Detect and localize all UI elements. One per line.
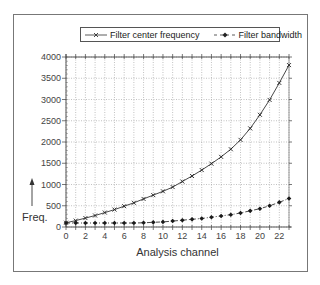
- series-center-frequency-line: [66, 65, 289, 223]
- x-tick-label: 18: [236, 231, 246, 241]
- series-bandwidth-line: [66, 199, 289, 224]
- diamond-marker: [122, 221, 127, 226]
- x-axis-title: Analysis channel: [136, 246, 219, 258]
- legend-item-bandwidth: Filter bandwidth: [210, 30, 303, 40]
- x-tick-label: 12: [177, 231, 187, 241]
- y-tick-label: 2500: [41, 116, 61, 126]
- diamond-marker: [229, 212, 234, 217]
- y-tick-label: 1000: [41, 180, 61, 190]
- legend-label-bandwidth: Filter bandwidth: [239, 30, 303, 40]
- x-tick-label: 0: [63, 231, 68, 241]
- diamond-marker: [277, 200, 282, 205]
- diamond-marker: [287, 196, 292, 201]
- x-tick-label: 14: [197, 231, 207, 241]
- x-tick-label: 10: [158, 231, 168, 241]
- diamond-marker: [190, 217, 195, 222]
- y-axis-title: Freq.: [22, 211, 48, 223]
- y-tick-label: 4000: [41, 52, 61, 62]
- x-tick-label: 22: [274, 231, 284, 241]
- y-tick-label: 0: [56, 222, 61, 232]
- x-tick-label: 2: [83, 231, 88, 241]
- x-tick-label: 20: [255, 231, 265, 241]
- x-marker: [239, 138, 243, 142]
- diamond-marker: [161, 220, 166, 225]
- diamond-marker: [209, 215, 214, 220]
- x-marker: [171, 185, 175, 189]
- line-chart: 0500100015002000250030003500400002468101…: [0, 0, 320, 285]
- diamond-marker: [93, 221, 98, 226]
- x-marker: [151, 193, 155, 197]
- diamond-marker: [112, 221, 117, 226]
- y-tick-label: 500: [46, 201, 61, 211]
- x-marker: [132, 201, 136, 205]
- diamond-marker: [238, 211, 243, 216]
- y-tick-label: 1500: [41, 158, 61, 168]
- legend-dashed-diamond-marker-icon: [214, 31, 236, 39]
- diamond-marker: [199, 216, 204, 221]
- diamond-marker: [170, 219, 175, 224]
- diamond-marker: [141, 220, 146, 225]
- chart-legend: Filter center frequency Filter bandwidth: [80, 27, 280, 42]
- x-marker: [277, 81, 281, 85]
- diamond-marker: [83, 221, 88, 226]
- arrow-up-icon: [30, 178, 35, 185]
- x-tick-label: 6: [122, 231, 127, 241]
- diamond-marker: [132, 221, 137, 226]
- x-marker: [268, 98, 272, 102]
- legend-solid-x-marker-icon: [85, 31, 107, 39]
- diamond-marker: [151, 220, 156, 225]
- legend-item-center-frequency: Filter center frequency: [81, 30, 200, 40]
- diamond-marker: [248, 209, 253, 214]
- y-tick-label: 2000: [41, 137, 61, 147]
- x-tick-label: 16: [216, 231, 226, 241]
- legend-label-center-frequency: Filter center frequency: [110, 30, 200, 40]
- x-marker: [200, 168, 204, 172]
- y-tick-label: 3000: [41, 95, 61, 105]
- diamond-marker: [267, 203, 272, 208]
- diamond-marker: [180, 218, 185, 223]
- diamond-marker: [102, 221, 107, 226]
- diamond-marker: [219, 214, 224, 219]
- y-tick-label: 3500: [41, 73, 61, 83]
- x-tick-label: 8: [141, 231, 146, 241]
- diamond-marker: [258, 206, 263, 211]
- x-marker: [258, 113, 262, 117]
- x-tick-label: 4: [102, 231, 107, 241]
